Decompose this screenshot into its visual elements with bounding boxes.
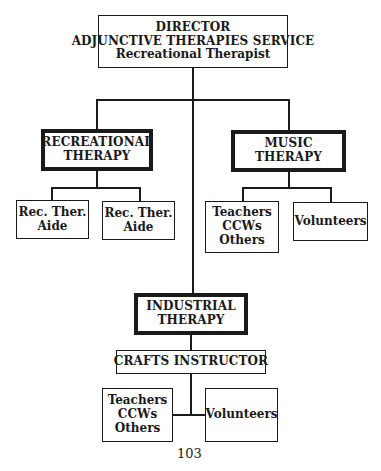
industrial-staff-box: Teachers CCWs Others — [102, 388, 173, 442]
director-role: Recreational Therapist — [116, 48, 271, 62]
connector-music-horizontal — [242, 187, 331, 189]
recreational-therapy-box: RECREATIONAL THERAPY — [41, 129, 153, 171]
connector-rec-down — [96, 170, 98, 188]
music-staff-label-3: Others — [219, 234, 264, 248]
music-staff-label-2: CCWs — [222, 220, 261, 234]
recreational-label-2: THERAPY — [64, 150, 131, 164]
music-label-1: MUSIC — [264, 137, 312, 151]
connector-top-horizontal — [96, 99, 289, 101]
recreational-label-1: RECREATIONAL — [41, 136, 152, 150]
music-label-2: THERAPY — [255, 151, 322, 165]
connector-music-drop — [288, 99, 290, 134]
page-number: 103 — [177, 446, 202, 461]
rec-aide-box-1: Rec. Ther. Aide — [16, 200, 89, 239]
industrial-volunteers-box: Volunteers — [205, 388, 278, 442]
industrial-staff-label-3: Others — [115, 422, 160, 436]
rec-aide-1-label-2: Aide — [38, 220, 68, 234]
director-service: ADJUNCTIVE THERAPIES SERVICE — [72, 35, 315, 49]
industrial-volunteers-label: Volunteers — [205, 408, 277, 422]
connector-music-left — [242, 187, 244, 202]
industrial-label-2: THERAPY — [158, 314, 225, 328]
connector-crafts-down — [190, 373, 192, 415]
industrial-label-1: INDUSTRIAL — [146, 300, 235, 314]
connector-crafts-horizontal — [172, 414, 206, 416]
music-staff-label-1: Teachers — [212, 206, 272, 220]
rec-aide-1-label-1: Rec. Ther. — [19, 206, 87, 220]
music-volunteers-box: Volunteers — [293, 202, 368, 241]
director-title: DIRECTOR — [156, 21, 231, 35]
music-volunteers-label: Volunteers — [294, 215, 366, 229]
crafts-label: CRAFTS INSTRUCTOR — [114, 355, 268, 369]
industrial-staff-label-1: Teachers — [108, 394, 168, 408]
connector-rec-horizontal — [51, 187, 140, 189]
industrial-therapy-box: INDUSTRIAL THERAPY — [134, 293, 248, 335]
crafts-instructor-box: CRAFTS INSTRUCTOR — [116, 350, 266, 374]
rec-aide-box-2: Rec. Ther. Aide — [102, 201, 175, 240]
connector-director-trunk — [192, 68, 194, 313]
rec-aide-2-label-1: Rec. Ther. — [105, 207, 173, 221]
rec-aide-2-label-2: Aide — [124, 221, 154, 235]
music-therapy-box: MUSIC THERAPY — [231, 130, 346, 172]
director-box: DIRECTOR ADJUNCTIVE THERAPIES SERVICE Re… — [98, 15, 288, 68]
connector-rec-drop — [96, 99, 98, 132]
industrial-staff-label-2: CCWs — [118, 408, 157, 422]
music-staff-box: Teachers CCWs Others — [205, 201, 279, 253]
connector-rec-right — [139, 187, 141, 202]
connector-music-right — [330, 187, 332, 202]
connector-industrial-to-crafts — [190, 333, 192, 351]
connector-music-down — [288, 171, 290, 188]
